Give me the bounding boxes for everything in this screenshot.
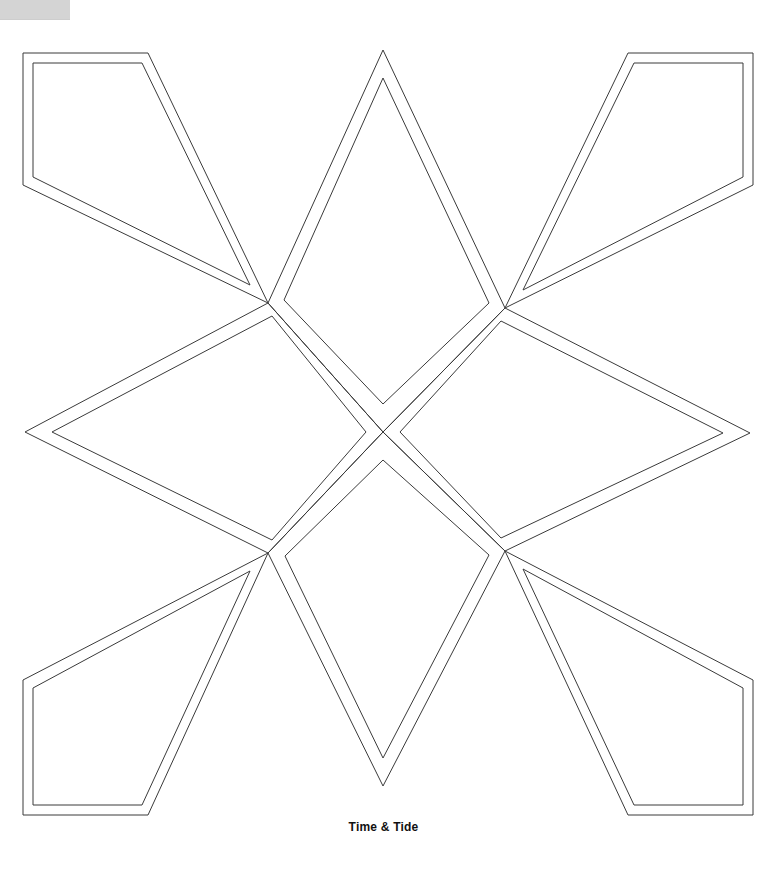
kite-bottom-left: [23, 553, 268, 815]
diamond-left-outer-outline: [25, 303, 383, 553]
kite-top-left-outer-outline: [23, 53, 268, 303]
kite-top-left-inner-outline: [33, 63, 250, 285]
diamond-right-inner-outline: [400, 321, 723, 538]
kite-top-right: [505, 53, 753, 308]
star-pattern-drawing: [0, 0, 767, 881]
kite-bottom-left-inner-outline: [33, 571, 250, 805]
shape-layer: [23, 50, 753, 815]
pattern-page: Time & Tide: [0, 0, 767, 881]
diamond-top-outer-outline: [268, 50, 505, 432]
diamond-bottom-inner-outline: [285, 460, 489, 758]
pattern-caption: Time & Tide: [0, 820, 767, 834]
kite-bottom-right-inner-outline: [523, 569, 743, 805]
kite-top-right-inner-outline: [523, 63, 743, 290]
kite-bottom-right: [505, 551, 753, 815]
kite-bottom-left-outer-outline: [23, 553, 268, 815]
diamond-left: [25, 303, 383, 553]
kite-top-right-outer-outline: [505, 53, 753, 308]
diamond-left-inner-outline: [52, 316, 366, 540]
diamond-right-outer-outline: [383, 308, 750, 551]
diamond-right: [383, 308, 750, 551]
kite-top-left: [23, 53, 268, 303]
diamond-bottom: [268, 432, 505, 786]
diamond-bottom-outer-outline: [268, 432, 505, 786]
kite-bottom-right-outer-outline: [505, 551, 753, 815]
diamond-top: [268, 50, 505, 432]
